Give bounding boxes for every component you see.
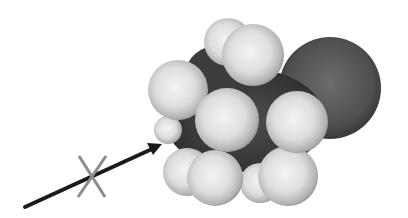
blocked-x-icon bbox=[78, 156, 106, 197]
hydrogen-atom-bottom-right bbox=[258, 146, 318, 206]
molecule-diagram bbox=[0, 0, 408, 218]
hydrogen-atom-back-left bbox=[154, 116, 182, 144]
hydrogen-atom-front-center bbox=[195, 88, 259, 152]
hydrogen-atom-front-right bbox=[266, 91, 328, 153]
hydrogen-atom-bottom-left bbox=[187, 150, 243, 206]
hydrogen-atom-top bbox=[222, 24, 284, 86]
